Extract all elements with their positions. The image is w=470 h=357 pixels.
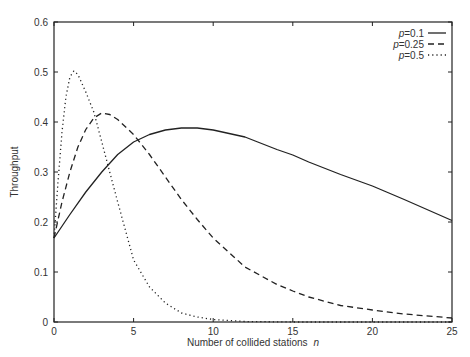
curve-dashed: [54, 113, 452, 318]
x-tick-label: 0: [51, 326, 57, 337]
y-tick-label: 0.3: [34, 167, 48, 178]
x-tick-label: 5: [131, 326, 137, 337]
legend-label: p=0.25: [392, 39, 424, 50]
plot-frame: [54, 22, 452, 322]
y-tick-label: 0.2: [34, 217, 48, 228]
curves: [54, 71, 452, 322]
y-tick-label: 0: [42, 317, 48, 328]
curve-dotted: [54, 71, 452, 322]
x-tick-label: 25: [446, 326, 458, 337]
y-tick-label: 0.4: [34, 117, 48, 128]
legend-label: p=0.1: [398, 28, 425, 39]
y-tick-label: 0.6: [34, 17, 48, 28]
x-axis-label: Number of collided stationsn: [187, 337, 320, 348]
x-tick-label: 20: [367, 326, 379, 337]
legend: p=0.1p=0.25p=0.5: [392, 28, 446, 61]
y-tick-label: 0.1: [34, 267, 48, 278]
x-tick-label: 15: [287, 326, 299, 337]
throughput-chart: 051015202500.10.20.30.40.50.6 Throughput…: [0, 0, 470, 357]
y-tick-label: 0.5: [34, 67, 48, 78]
curve-solid: [54, 128, 452, 238]
legend-label: p=0.5: [398, 50, 425, 61]
x-axis-label-text: Number of collided stations: [187, 337, 308, 348]
x-axis-label-var: n: [314, 337, 320, 348]
y-axis-label: Throughput: [9, 146, 20, 197]
x-tick-label: 10: [208, 326, 220, 337]
